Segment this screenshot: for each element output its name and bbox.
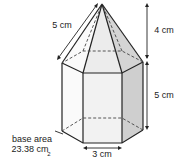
left-face: [122, 62, 143, 143]
base-area-label: base area: [12, 134, 52, 144]
prism-height-label: 5 cm: [154, 90, 174, 100]
pyramid-height-label: 4 cm: [154, 25, 174, 35]
top-edge-label: 3 cm: [92, 149, 112, 159]
base-area-superscript: 2: [47, 151, 51, 157]
base-area-value: 23.38 cm: [11, 144, 48, 154]
slant-edge-label: 5 cm: [52, 20, 72, 30]
front-face: [83, 73, 122, 143]
prism-pyramid-diagram: 3 cm 5 cm 4 cm 5 cm base area 23.38 cm 2: [0, 0, 180, 161]
right-face: [62, 63, 83, 143]
diagram: 3 cm 5 cm 4 cm 5 cm base area 23.38 cm 2: [0, 0, 180, 161]
